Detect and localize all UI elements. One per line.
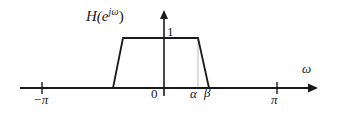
transfer-function-base: H(e — [86, 8, 109, 24]
alpha-tick-label: α — [190, 87, 197, 100]
amplitude-one-label: 1 — [167, 25, 174, 38]
transfer-function-exponent: jω — [109, 6, 119, 17]
magnitude-axis-arrowhead — [160, 10, 168, 19]
plot-canvas — [0, 0, 338, 116]
transfer-function-label: H(ejω) — [86, 7, 124, 24]
omega-axis-arrowhead — [308, 84, 318, 93]
neg-pi-tick-label: −π — [33, 93, 48, 106]
response-curve-trapezoid — [113, 38, 209, 88]
pi-tick-label: π — [271, 93, 278, 106]
beta-tick-label: β — [204, 86, 210, 99]
origin-label: 0 — [151, 87, 158, 100]
frequency-response-figure: H(ejω) 1 0 α β −π π ω — [0, 0, 338, 116]
omega-axis-label: ω — [302, 62, 311, 75]
transfer-function-close-paren: ) — [119, 8, 124, 24]
